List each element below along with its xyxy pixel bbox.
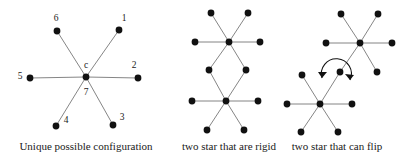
node-star-upper-right-flip-spoke-nw (338, 11, 345, 18)
vertex-label-5: 5 (18, 71, 23, 81)
node-star-bottom-rigid-spoke-w (189, 98, 196, 105)
node-star-lower-left-flip-spoke-w (284, 101, 291, 108)
node-star-bottom-rigid-spoke-se (241, 127, 248, 134)
node-star-top-rigid-spoke-e (257, 39, 264, 46)
node-star-upper-right-flip-spoke-sw (337, 69, 344, 76)
vertex-label-1: 1 (122, 13, 127, 23)
star-configurations-figure: c7123456Unique possible configurationtwo… (0, 0, 406, 162)
node-star-lower-left-flip-spoke-sw (298, 129, 305, 136)
node-center-star-lower-left-flip (317, 101, 324, 108)
vertex-label-4: 4 (64, 115, 69, 125)
node-star-lower-left-flip-spoke-se (335, 129, 342, 136)
node-star-upper-right-flip-spoke-se (374, 69, 381, 76)
node-star-top-rigid-spoke-ne (245, 10, 252, 17)
node-star-center-c-spoke-2 (135, 75, 142, 82)
figure-background (0, 0, 406, 162)
caption-panel-two-star-rigid: two star that are rigid (182, 140, 277, 152)
vertex-label-c: c (84, 60, 88, 70)
node-star-center-c-spoke-6 (54, 28, 61, 35)
vertex-label-3: 3 (120, 112, 125, 122)
node-star-bottom-rigid-spoke-sw (204, 127, 211, 134)
node-star-top-rigid-spoke-sw (206, 67, 213, 74)
vertex-label-2: 2 (132, 60, 137, 70)
caption-panel-two-star-flip: two star that can flip (292, 140, 383, 152)
node-star-center-c-spoke-3 (110, 122, 117, 129)
node-star-upper-right-flip-spoke-ne (375, 11, 382, 18)
node-center-star-upper-right-flip (357, 40, 364, 47)
node-star-bottom-rigid-spoke-e (255, 98, 262, 105)
node-star-center-c-spoke-1 (116, 27, 123, 34)
node-star-center-c-spoke-4 (53, 123, 60, 130)
node-star-lower-left-flip-spoke-nw (299, 72, 306, 79)
node-center-star-bottom-rigid (223, 98, 230, 105)
node-star-top-rigid-spoke-se (243, 67, 250, 74)
vertex-label-7: 7 (84, 87, 89, 97)
node-star-top-rigid-spoke-w (192, 39, 199, 46)
node-star-top-rigid-spoke-nw (208, 10, 215, 17)
node-star-lower-left-flip-spoke-e (349, 101, 356, 108)
node-center-star-top-rigid (226, 39, 233, 46)
node-center-star-center-c (83, 74, 90, 81)
node-star-upper-right-flip-spoke-w (323, 40, 330, 47)
node-star-upper-right-flip-spoke-e (389, 40, 396, 47)
vertex-label-6: 6 (54, 13, 59, 23)
node-star-center-c-spoke-5 (27, 75, 34, 82)
caption-panel-unique-configuration: Unique possible configuration (19, 140, 153, 152)
